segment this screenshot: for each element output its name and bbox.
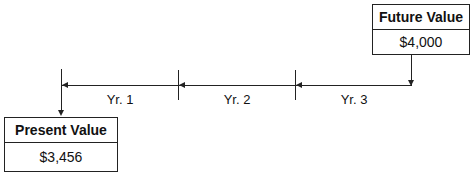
present-value-title: Present Value [5,118,117,143]
present-value-box: Present Value $3,456 [4,117,118,172]
arrow-left-icon [179,82,185,88]
tick-year-0 [61,69,62,113]
future-value-amount: $4,000 [373,30,469,54]
present-value-amount: $3,456 [5,143,117,171]
arrow-left-icon [296,82,302,88]
period-label-yr1: Yr. 1 [90,92,150,107]
arrow-left-icon [62,82,68,88]
arrow-down-icon [408,80,414,86]
period-label-yr3: Yr. 3 [324,92,384,107]
period-label-yr2: Yr. 2 [207,92,267,107]
future-value-box: Future Value $4,000 [372,4,470,55]
timeline [61,85,412,86]
arrow-down-icon [58,110,64,116]
future-value-title: Future Value [373,5,469,30]
